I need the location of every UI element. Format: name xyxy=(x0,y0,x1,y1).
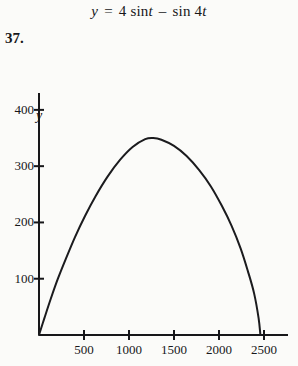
equation-sin-second: sin xyxy=(173,3,191,19)
problem-number: 37. xyxy=(5,30,24,47)
equation-coefficient: 4 xyxy=(119,3,127,19)
equation-caption: y = 4 sint – sin 4t xyxy=(0,3,298,20)
y-axis-tick-label: 300 xyxy=(0,158,34,174)
figure-page: y = 4 sint – sin 4t 37. y x 100200300400… xyxy=(0,0,298,366)
chart-plot-area: y x 100200300400 5001000150020002500 xyxy=(0,52,298,366)
x-axis-tick-label: 1000 xyxy=(106,342,152,358)
equation-arg-4t: t xyxy=(202,3,206,19)
equation-lhs: y xyxy=(91,3,98,19)
x-axis-tick-label: 2500 xyxy=(241,342,287,358)
y-axis-tick-label: 100 xyxy=(0,271,34,287)
equation-equals: = xyxy=(102,3,115,19)
x-axis-tick-label: 500 xyxy=(61,342,107,358)
chart-svg xyxy=(0,52,298,366)
equation-arg-t: t xyxy=(149,3,153,19)
y-axis-tick-label: 400 xyxy=(0,102,34,118)
y-axis-label: y xyxy=(36,108,42,124)
data-curve xyxy=(39,138,260,335)
x-axis-tick-label: 2000 xyxy=(196,342,242,358)
x-axis-tick-label: 1500 xyxy=(151,342,197,358)
equation-minus: – xyxy=(157,3,169,19)
y-axis-tick-label: 200 xyxy=(0,214,34,230)
equation-sin-first: sin xyxy=(130,3,148,19)
